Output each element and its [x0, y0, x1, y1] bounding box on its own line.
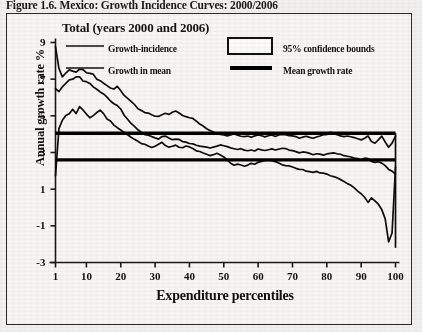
x-tick-label: 30 [140, 271, 170, 282]
x-axis-title: Expenditure percentiles [55, 288, 395, 304]
x-tick-label: 70 [277, 271, 307, 282]
y-tick-label: 3 [20, 147, 46, 158]
x-tick-label: 80 [312, 271, 342, 282]
legend-label-mean-growth-rate: Mean growth rate [283, 66, 352, 77]
y-tick-label: -1 [20, 220, 46, 231]
x-tick-label: 100 [381, 271, 411, 282]
legend-label-growth-incidence: Growth-incidence [108, 44, 177, 55]
y-tick-label: 5 [20, 110, 46, 121]
legend-label-confidence-bounds: 95% confidence bounds [283, 44, 374, 55]
chart-plot-area: Annual growth rate % Expenditure percent… [0, 0, 422, 332]
y-tick-label: -3 [20, 257, 46, 268]
x-tick-label: 50 [209, 271, 239, 282]
x-tick-label: 60 [243, 271, 273, 282]
y-tick-label: 1 [20, 184, 46, 195]
x-tick-label: 90 [346, 271, 376, 282]
y-tick-label: 7 [20, 74, 46, 85]
x-tick-label: 1 [41, 271, 71, 282]
x-tick-label: 40 [174, 271, 204, 282]
y-tick-label: 9 [20, 37, 46, 48]
legend-label-growth-in-mean: Growth in mean [108, 66, 171, 77]
y-axis-title: Annual growth rate % [33, 28, 48, 188]
x-tick-label: 20 [106, 271, 136, 282]
x-tick-label: 10 [71, 271, 101, 282]
